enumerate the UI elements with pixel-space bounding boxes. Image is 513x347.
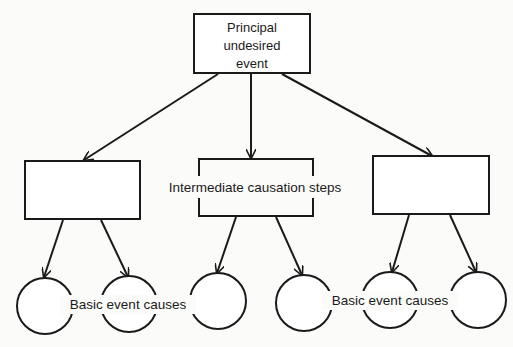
basic-label-2: Basic event causes xyxy=(332,293,449,308)
top-event-node: Principal undesired event xyxy=(194,14,310,73)
top-event-line-1: Principal xyxy=(227,20,277,35)
fault-tree-diagram: Principal undesired event Intermediate c… xyxy=(0,0,513,347)
basic-node-6 xyxy=(450,272,506,328)
edge-top-to-int1 xyxy=(84,74,218,160)
edge-int2-to-b3 xyxy=(217,217,236,273)
edge-int3-to-b6 xyxy=(450,215,476,272)
edge-int3-to-b5 xyxy=(392,215,409,272)
top-event-line-2: undesired xyxy=(223,38,280,53)
intermediate-label: Intermediate causation steps xyxy=(169,180,342,195)
edge-int1-to-b2 xyxy=(101,220,128,277)
edge-int2-to-b4 xyxy=(276,217,302,275)
edge-int1-to-b1 xyxy=(44,220,63,277)
basic-label-1: Basic event causes xyxy=(70,297,187,312)
basic-node-3 xyxy=(190,273,246,329)
top-event-line-3: event xyxy=(236,56,268,71)
intermediate-node-1 xyxy=(25,161,140,219)
basic-edges xyxy=(44,215,476,277)
top-edges xyxy=(84,74,432,160)
intermediate-node-3 xyxy=(373,156,489,214)
edge-top-to-int3 xyxy=(282,74,432,156)
